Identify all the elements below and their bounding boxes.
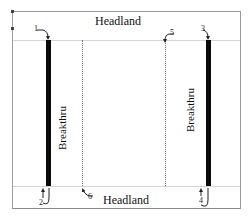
marker-5: 5 [170,28,174,37]
marker-2: 2 [39,198,43,207]
marker-3: 3 [201,24,205,33]
marker-1: 1 [34,24,38,33]
marker-4: 4 [199,196,203,205]
turn-arrows-icon [0,0,252,223]
marker-6: 6 [88,192,92,201]
